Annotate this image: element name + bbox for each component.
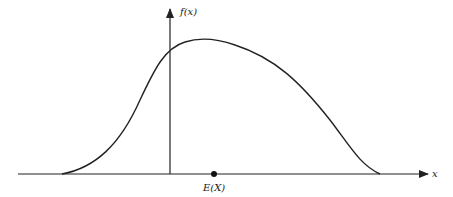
mean-point: [211, 171, 217, 177]
x-axis-label: x: [432, 168, 438, 179]
diagram-canvas: [0, 0, 453, 197]
mean-label: E(X): [203, 182, 225, 193]
density-diagram: f(x) E(X) x: [0, 0, 453, 197]
density-curve: [62, 39, 380, 174]
y-axis-label: f(x): [180, 6, 197, 17]
